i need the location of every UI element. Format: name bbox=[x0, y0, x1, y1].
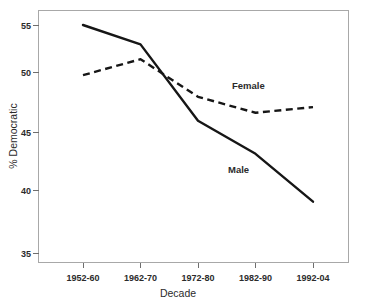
y-tick-label: 50 bbox=[21, 68, 31, 78]
x-axis-title: Decade bbox=[160, 287, 196, 299]
y-tick-label: 35 bbox=[21, 249, 31, 259]
x-axis-ticks bbox=[83, 263, 313, 269]
chart-canvas: 55 50 45 40 35 1952-60 1962-70 1972-80 1… bbox=[0, 0, 370, 303]
series-label-male: Male bbox=[228, 164, 249, 175]
series-label-female: Female bbox=[232, 80, 265, 91]
x-tick-label: 1982-90 bbox=[239, 273, 272, 283]
plot-frame bbox=[39, 11, 349, 263]
y-axis-ticks bbox=[33, 25, 39, 253]
x-tick-label: 1992-04 bbox=[296, 273, 329, 283]
y-tick-label: 45 bbox=[21, 128, 31, 138]
y-axis-title: % Democratic bbox=[7, 103, 19, 168]
x-tick-label: 1972-80 bbox=[181, 273, 214, 283]
x-axis-tick-labels: 1952-60 1962-70 1972-80 1982-90 1992-04 bbox=[66, 273, 329, 283]
line-chart: 55 50 45 40 35 1952-60 1962-70 1972-80 1… bbox=[0, 0, 370, 303]
y-tick-label: 40 bbox=[21, 186, 31, 196]
y-tick-label: 55 bbox=[21, 21, 31, 31]
x-tick-label: 1952-60 bbox=[66, 273, 99, 283]
y-axis-tick-labels: 55 50 45 40 35 bbox=[21, 21, 31, 259]
x-tick-label: 1962-70 bbox=[124, 273, 157, 283]
